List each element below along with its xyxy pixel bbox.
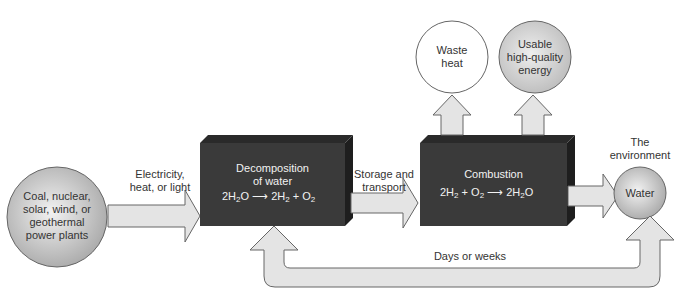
label-line: Storage and xyxy=(348,168,420,181)
source-line: solar, wind, or xyxy=(12,203,102,216)
eq-part: 2H xyxy=(440,186,454,198)
title-line: Decomposition xyxy=(200,162,345,175)
reaction-arrow-icon: ⟶ xyxy=(487,186,503,198)
storage-arrow-label: Storage and transport xyxy=(348,168,420,194)
eq-sub: 2 xyxy=(285,195,289,204)
waste-heat-arrow xyxy=(433,95,471,135)
eq-part: O xyxy=(302,190,311,202)
combustion-equation: 2H2 + O2 ⟶ 2H2O xyxy=(440,186,533,200)
label-line: high-quality xyxy=(495,51,575,64)
eq-plus: + xyxy=(462,186,468,198)
source-label: Coal, nuclear, solar, wind, or geotherma… xyxy=(12,190,102,242)
label-line: Electricity, xyxy=(120,168,200,181)
label-line: The xyxy=(600,136,680,149)
label-line: environment xyxy=(600,149,680,162)
label-line: transport xyxy=(348,181,420,194)
reaction-arrow-icon: ⟶ xyxy=(252,190,268,202)
decomposition-equation: 2H2O ⟶ 2H2 + O2 xyxy=(222,190,315,204)
water-label: Water xyxy=(614,187,666,200)
label-line: heat, or light xyxy=(120,181,200,194)
label-line: Waste xyxy=(416,44,488,57)
eq-sub: 2 xyxy=(311,195,315,204)
eq-part: O xyxy=(241,190,250,202)
return-arrow-label: Days or weeks xyxy=(410,250,530,263)
environment-label: The environment xyxy=(600,136,680,162)
energy-arrow-label: Electricity, heat, or light xyxy=(120,168,200,194)
decomposition-title: Decomposition of water xyxy=(200,162,345,188)
eq-part: O xyxy=(471,186,480,198)
label-line: Usable xyxy=(495,38,575,51)
source-line: geothermal xyxy=(12,216,102,229)
diagram-canvas xyxy=(0,0,685,300)
eq-part: 2H xyxy=(271,190,285,202)
waste-heat-label: Waste heat xyxy=(416,44,488,70)
eq-part: 2H xyxy=(506,186,520,198)
energy-arrow xyxy=(108,190,200,242)
eq-part: O xyxy=(525,186,534,198)
eq-plus: + xyxy=(293,190,299,202)
source-line: power plants xyxy=(12,229,102,242)
title-line: of water xyxy=(200,175,345,188)
exhaust-arrow xyxy=(568,174,618,218)
label-line: heat xyxy=(416,57,488,70)
usable-energy-label: Usable high-quality energy xyxy=(495,38,575,77)
label-line: energy xyxy=(495,64,575,77)
usable-energy-arrow xyxy=(514,95,552,135)
eq-sub: 2 xyxy=(480,191,484,200)
source-line: Coal, nuclear, xyxy=(12,190,102,203)
eq-sub: 2 xyxy=(454,191,458,200)
eq-part: 2H xyxy=(222,190,236,202)
combustion-title: Combustion xyxy=(420,168,567,181)
